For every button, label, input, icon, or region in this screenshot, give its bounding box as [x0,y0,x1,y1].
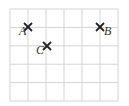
point-label: B [104,24,112,38]
point-label: A [18,24,27,38]
grid-diagram: ABC [0,0,129,106]
point-a: A [18,23,32,38]
point-label: C [36,43,45,57]
grid [10,9,118,101]
point-b: B [96,23,112,38]
point-c: C [36,42,51,57]
